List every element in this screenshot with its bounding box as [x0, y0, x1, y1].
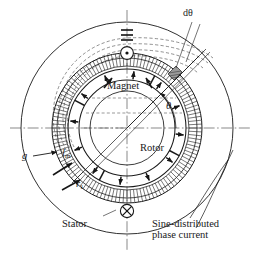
motor-cross-section-svg	[0, 0, 261, 256]
figure-canvas: dθ Magnet θ Rotor g lm r1 Stator Sine-di…	[0, 0, 261, 256]
stator-label: Stator	[62, 218, 87, 229]
sine-current-line1: Sine-distributed	[152, 218, 219, 229]
d-theta-element	[168, 66, 182, 80]
magnet-length-leader	[53, 163, 72, 175]
d-theta-label: dθ	[183, 8, 193, 19]
current-into-page-icon	[120, 204, 133, 217]
sine-current-leader-lower	[196, 150, 233, 228]
radius-subscript: 1	[80, 183, 84, 191]
magnet-label: Magnet	[107, 80, 139, 91]
d-theta-second-ray	[86, 52, 210, 178]
magnet-length-subscript: m	[65, 152, 71, 160]
radius-label: r1	[76, 178, 84, 191]
stator-leader	[103, 210, 116, 216]
sine-current-line2: phase current	[152, 229, 208, 240]
current-out-of-page-icon	[121, 47, 134, 60]
theta-label: θ	[166, 100, 171, 111]
rotor-label: Rotor	[140, 142, 164, 153]
magnet-length-label: lm	[62, 147, 70, 160]
sine-current-label: Sine-distributed phase current	[152, 218, 219, 241]
airgap-leader	[33, 152, 57, 156]
sine-current-leader-upper	[190, 160, 228, 218]
air-gap-label: g	[22, 150, 27, 161]
